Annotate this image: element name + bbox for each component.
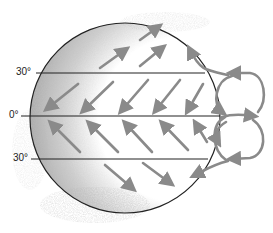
latitude-30s-label: 30° <box>13 152 28 163</box>
equator-label: 0° <box>9 109 19 120</box>
earth-wind-diagram <box>0 0 273 233</box>
latitude-30n-label: 30° <box>16 66 31 77</box>
